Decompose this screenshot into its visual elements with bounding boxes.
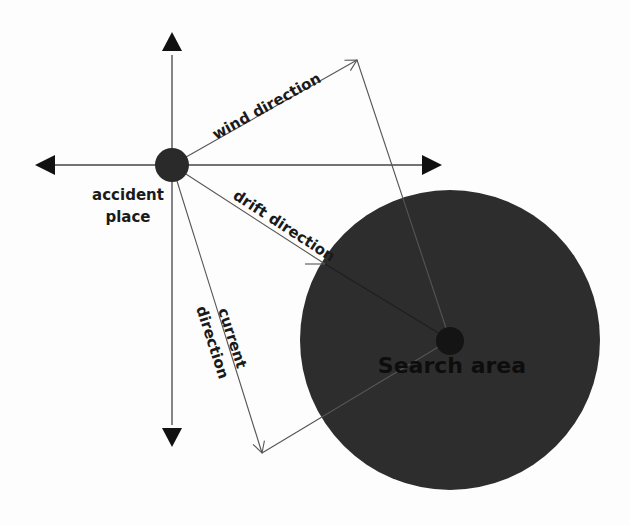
drift-direction-label: drift direction (230, 186, 339, 265)
arrowhead-south-icon (162, 428, 182, 447)
accident-point (155, 148, 189, 182)
accident-place-label-line2: place (105, 208, 150, 226)
accident-place-label-line1: accident (92, 186, 164, 204)
drift-vector (172, 165, 325, 264)
arrowhead-east-icon (422, 155, 442, 175)
search-center-point (436, 327, 464, 355)
arrowhead-west-icon (35, 155, 55, 175)
wind-direction-label: wind direction (209, 69, 324, 144)
search-area-label: Search area (378, 353, 526, 378)
arrowhead-north-icon (162, 32, 182, 51)
search-area-diagram: wind direction drift direction current d… (0, 0, 630, 525)
diagram-canvas: wind direction drift direction current d… (0, 0, 630, 525)
